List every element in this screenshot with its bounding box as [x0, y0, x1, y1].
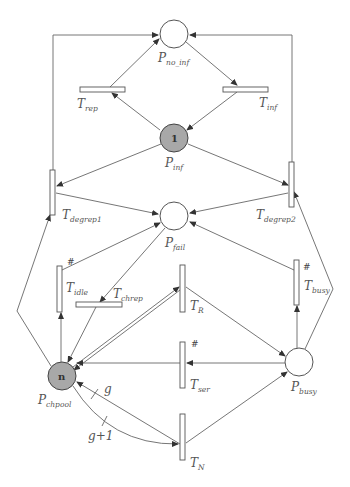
mark-t-busy: #	[303, 262, 311, 272]
arc-tdegrep2-to-pfail	[190, 193, 288, 213]
label-t-chrep: Tchrep	[113, 287, 143, 303]
label-t-degrep2: Tdegrep2	[256, 208, 296, 224]
arc-pinf-to-tdegrep1	[57, 144, 161, 186]
arc-pchpool-to-tdegrep1	[17, 215, 51, 366]
place-label-sub: chpool	[46, 400, 72, 409]
label-t-rep: Trep	[77, 97, 98, 113]
token-count: 1	[171, 133, 178, 144]
transition-t-r	[180, 265, 185, 312]
place-p-no-inf: Pno_inf	[157, 20, 190, 67]
transition-t-inf	[223, 87, 268, 92]
arc-pfail-to-tchrep	[100, 228, 165, 302]
place-label-sub: fail	[172, 243, 186, 252]
label-t-ser: Tser	[190, 378, 210, 394]
place-label-sub: busy	[299, 387, 317, 396]
label-t-degrep1: Tdegrep1	[62, 208, 102, 224]
label-t-inf: Tinf	[259, 96, 278, 112]
svg-text:Pfail: Pfail	[164, 236, 186, 252]
weight-tick-g-plus-1	[102, 416, 107, 426]
transition-t-n	[180, 414, 185, 460]
transition-t-ser	[180, 342, 185, 388]
place-label-sub: inf	[173, 163, 184, 172]
place-p-inf: 1 Pinf	[160, 124, 188, 172]
label-t-busy: Tbusy	[304, 279, 330, 295]
svg-text:Pno_inf: Pno_inf	[157, 51, 190, 67]
arc-tdegrep1-to-pfail	[56, 193, 158, 214]
weight-label-g: g	[104, 382, 112, 396]
arc-tchrep-to-pchpool	[68, 307, 96, 362]
arc-pnoinf-to-tinf	[186, 42, 237, 85]
arc-trep-to-pnoinf	[110, 39, 159, 87]
arc-tdegrep2-to-pnoinf	[190, 35, 292, 162]
place-p-busy: Pbusy	[285, 348, 318, 396]
transition-t-rep	[80, 87, 125, 92]
mark-t-ser: #	[191, 339, 199, 349]
place-p-fail: Pfail	[160, 202, 188, 252]
svg-text:Pchpool: Pchpool	[37, 393, 72, 409]
place-label-sub: no_inf	[166, 58, 190, 67]
transition-t-idle	[57, 266, 62, 312]
weight-label-g-plus-1: g+1	[88, 429, 113, 443]
transition-t-degrep1	[50, 170, 55, 215]
svg-text:Pbusy: Pbusy	[290, 380, 318, 396]
arc-tbusy-to-pfail	[190, 222, 294, 270]
label-t-n: TN	[190, 456, 205, 472]
arc-pinf-to-trep	[112, 93, 160, 130]
token-count: n	[58, 371, 66, 382]
arc-tinf-to-pinf	[187, 92, 237, 130]
arc-tidle-to-pfail	[62, 223, 160, 270]
mark-t-idle: #	[67, 257, 75, 267]
place-p-chpool: n Pchpool	[37, 362, 76, 409]
transition-t-degrep2	[289, 162, 294, 207]
label-t-idle: Tidle	[66, 281, 89, 297]
transition-labels: Trep Tinf Tdegrep1 Tdegrep2 # Tidle Tchr…	[62, 96, 330, 472]
label-t-r: TR	[190, 299, 204, 315]
arc-tr-to-pbusy	[186, 287, 285, 356]
svg-text:Pinf: Pinf	[164, 156, 184, 172]
transition-t-chrep	[76, 302, 122, 307]
arc-pinf-to-tdegrep2	[188, 144, 288, 185]
arc-tn-to-pbusy	[186, 372, 287, 443]
transition-t-busy	[294, 260, 299, 305]
arc-pbusy-to-tdegrep2	[294, 192, 333, 349]
petri-net-diagram: Pno_inf 1 Pinf Pfail n Pchpool Pbusy Tre…	[0, 0, 350, 487]
